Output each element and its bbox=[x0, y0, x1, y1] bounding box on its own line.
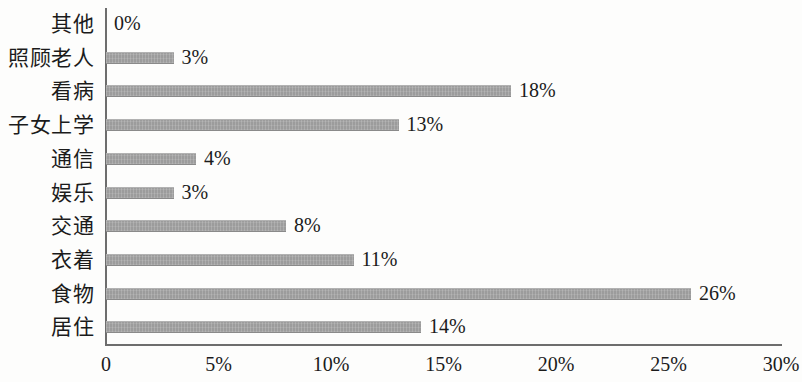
value-axis-labels: 05%10%15%20%25%30% bbox=[106, 350, 781, 382]
bar-value-label: 4% bbox=[204, 145, 231, 171]
bar-value-label: 8% bbox=[294, 212, 321, 238]
bar-value-label: 3% bbox=[182, 179, 209, 205]
category-label: 其他 bbox=[51, 8, 94, 42]
category-label: 子女上学 bbox=[8, 109, 94, 143]
category-label: 交通 bbox=[51, 210, 94, 244]
bar-value-label: 14% bbox=[429, 313, 466, 339]
bar-value-label: 3% bbox=[182, 44, 209, 70]
category-label: 食物 bbox=[51, 278, 94, 312]
bar bbox=[106, 187, 174, 199]
bar-chart-figure: 其他照顾老人看病子女上学通信娱乐交通衣着食物居住 0%3%18%13%4%3%8… bbox=[0, 0, 802, 382]
bar bbox=[106, 321, 421, 333]
bar-value-label: 26% bbox=[699, 280, 736, 306]
x-axis-tick-label: 15% bbox=[425, 350, 462, 378]
x-axis-tick-label: 20% bbox=[538, 350, 575, 378]
bar-row: 4% bbox=[106, 143, 781, 177]
x-axis-tick-label: 30% bbox=[763, 350, 800, 378]
plot-area: 0%3%18%13%4%3%8%11%26%14% bbox=[106, 8, 781, 345]
x-axis-tick-label: 0 bbox=[101, 350, 111, 378]
bar-row: 18% bbox=[106, 75, 781, 109]
bar bbox=[106, 119, 399, 131]
category-label: 居住 bbox=[51, 311, 94, 345]
category-label: 衣着 bbox=[51, 244, 94, 278]
bar-value-label: 18% bbox=[519, 77, 556, 103]
bar bbox=[106, 85, 511, 97]
category-label: 娱乐 bbox=[51, 177, 94, 211]
bar bbox=[106, 52, 174, 64]
category-label: 照顾老人 bbox=[8, 42, 94, 76]
bar-value-label: 0% bbox=[114, 10, 141, 36]
bar bbox=[106, 220, 286, 232]
x-axis-tick-label: 5% bbox=[205, 350, 232, 378]
bar-value-label: 11% bbox=[362, 246, 398, 272]
bar-row: 14% bbox=[106, 311, 781, 345]
bar-row: 11% bbox=[106, 244, 781, 278]
bar bbox=[106, 153, 196, 165]
bar-row: 3% bbox=[106, 177, 781, 211]
bar-row: 26% bbox=[106, 278, 781, 312]
category-axis-labels: 其他照顾老人看病子女上学通信娱乐交通衣着食物居住 bbox=[0, 8, 100, 345]
bar bbox=[106, 288, 691, 300]
bar-row: 0% bbox=[106, 8, 781, 42]
x-axis-tick-label: 25% bbox=[650, 350, 687, 378]
bar bbox=[106, 254, 354, 266]
bar-row: 13% bbox=[106, 109, 781, 143]
x-axis-tick-label: 10% bbox=[313, 350, 350, 378]
bar-row: 3% bbox=[106, 42, 781, 76]
category-label: 看病 bbox=[51, 75, 94, 109]
bar-row: 8% bbox=[106, 210, 781, 244]
category-label: 通信 bbox=[51, 143, 94, 177]
bar-value-label: 13% bbox=[407, 111, 444, 137]
